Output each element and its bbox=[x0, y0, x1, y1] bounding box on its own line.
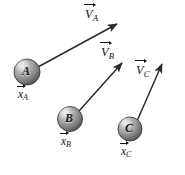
velocity-symbol-b: V bbox=[101, 45, 109, 59]
sphere-b bbox=[58, 107, 83, 132]
physics-vector-figure: A B C VA VB VC xA xB xC bbox=[0, 0, 185, 175]
velocity-subscript-b: B bbox=[109, 51, 114, 61]
position-subscript-c: C bbox=[126, 150, 131, 159]
position-symbol-c: x bbox=[121, 145, 126, 157]
position-label-c: xC bbox=[121, 146, 131, 159]
velocity-subscript-c: C bbox=[144, 69, 150, 79]
position-symbol-a: x bbox=[18, 88, 23, 100]
velocity-symbol-a: V bbox=[85, 7, 93, 21]
position-subscript-a: A bbox=[23, 93, 28, 102]
velocity-label-c: VC bbox=[136, 64, 149, 78]
velocity-label-b: VB bbox=[101, 46, 114, 60]
velocity-subscript-a: A bbox=[93, 13, 98, 23]
vector-arrow-bar-va bbox=[84, 4, 95, 5]
vector-arrow-bar-xc bbox=[120, 143, 128, 144]
velocity-label-a: VA bbox=[85, 8, 98, 22]
vector-arrow-bar-vc bbox=[135, 60, 146, 61]
vector-arrow-bar-xa bbox=[17, 86, 25, 87]
position-label-b: xB bbox=[61, 136, 71, 149]
sphere-a bbox=[14, 59, 40, 85]
vector-arrow-bar-xb bbox=[60, 133, 68, 134]
position-symbol-b: x bbox=[61, 135, 66, 147]
sphere-c bbox=[118, 117, 142, 141]
velocity-symbol-c: V bbox=[136, 63, 144, 77]
velocity-arrow-b bbox=[79, 63, 122, 111]
velocity-arrows-layer bbox=[0, 0, 185, 175]
position-label-a: xA bbox=[18, 89, 28, 102]
vector-arrow-bar-vb bbox=[100, 42, 111, 43]
position-subscript-b: B bbox=[66, 140, 71, 149]
